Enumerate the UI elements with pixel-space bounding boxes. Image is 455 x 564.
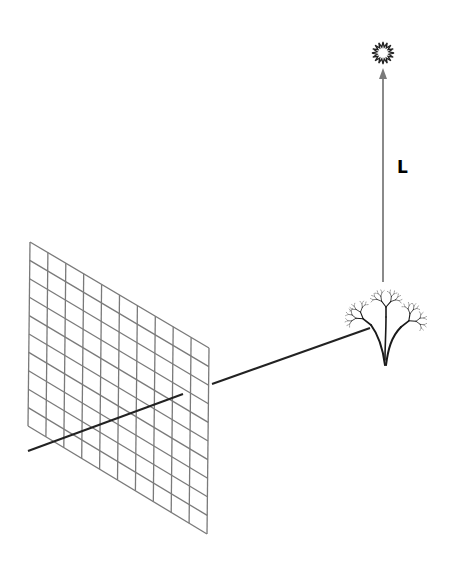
sensor-grid-plane bbox=[28, 242, 209, 534]
sun-icon bbox=[372, 42, 394, 64]
tree-icon bbox=[345, 290, 427, 365]
light-ray-line bbox=[212, 328, 370, 384]
light-vector-arrow bbox=[379, 68, 387, 282]
diagram-canvas bbox=[0, 0, 455, 564]
arrowhead-icon bbox=[379, 68, 387, 79]
light-vector-label: L bbox=[397, 157, 408, 177]
